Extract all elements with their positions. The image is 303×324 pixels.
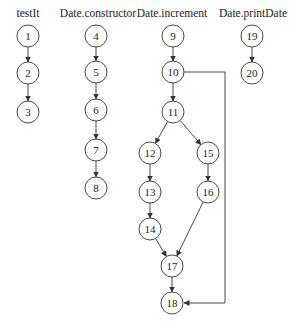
node-20: 20	[241, 62, 263, 84]
node-7: 7	[85, 139, 107, 161]
node-label: 9	[170, 30, 176, 42]
node-label: 1	[25, 30, 31, 42]
node-15: 15	[197, 142, 219, 164]
node-label: 2	[25, 67, 31, 79]
nodes-layer: 1234567891011121314151617181920	[17, 25, 263, 314]
node-label: 10	[168, 66, 180, 78]
control-flow-diagram: 1234567891011121314151617181920 testItDa…	[0, 0, 303, 324]
node-2: 2	[17, 62, 39, 84]
node-label: 4	[93, 30, 99, 42]
node-label: 20	[247, 67, 259, 79]
node-17: 17	[161, 255, 183, 277]
node-label: 16	[203, 186, 215, 198]
node-18: 18	[161, 292, 183, 314]
node-16: 16	[197, 181, 219, 203]
edge-11-to-15	[180, 120, 201, 144]
edges-layer	[28, 47, 252, 303]
node-label: 3	[25, 106, 31, 118]
node-label: 13	[145, 186, 157, 198]
node-13: 13	[139, 181, 161, 203]
node-6: 6	[85, 99, 107, 121]
node-10: 10	[162, 61, 184, 83]
node-label: 15	[203, 147, 215, 159]
node-label: 7	[93, 144, 99, 156]
column-labels: testItDate.constructorDate.incrementDate…	[17, 7, 288, 20]
node-label: 6	[93, 104, 99, 116]
edge-14-to-17	[156, 239, 167, 257]
node-4: 4	[85, 25, 107, 47]
node-3: 3	[17, 101, 39, 123]
column-label-printDate: Date.printDate	[219, 7, 287, 20]
node-12: 12	[139, 142, 161, 164]
node-1: 1	[17, 25, 39, 47]
node-5: 5	[85, 61, 107, 83]
node-9: 9	[162, 25, 184, 47]
column-label-testIt: testIt	[17, 7, 41, 19]
column-label-increment: Date.increment	[137, 7, 208, 19]
node-label: 17	[167, 260, 179, 272]
edge-16-to-17	[177, 202, 203, 256]
edge-11-to-12	[155, 122, 167, 144]
column-label-constructor: Date.constructor	[60, 7, 136, 19]
node-11: 11	[162, 101, 184, 123]
node-label: 11	[168, 106, 179, 118]
diagram-svg: 1234567891011121314151617181920 testItDa…	[0, 0, 303, 324]
node-label: 18	[167, 297, 179, 309]
node-8: 8	[85, 177, 107, 199]
node-label: 5	[93, 66, 99, 78]
node-19: 19	[241, 25, 263, 47]
node-label: 14	[145, 223, 157, 235]
node-label: 19	[247, 30, 259, 42]
node-label: 8	[93, 182, 99, 194]
node-label: 12	[145, 147, 156, 159]
node-14: 14	[139, 218, 161, 240]
